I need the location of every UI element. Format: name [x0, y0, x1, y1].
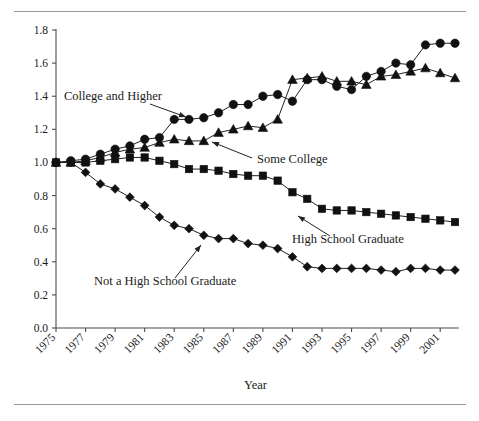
data-point-square [244, 172, 251, 179]
data-point-circle [170, 115, 178, 123]
data-point-diamond [273, 244, 282, 253]
data-point-triangle [169, 134, 179, 143]
annotation-not-a-high-school-graduate: Not a High School Graduate [94, 245, 237, 288]
x-tick-label: 1981 [121, 331, 146, 356]
data-point-diamond [421, 264, 430, 273]
y-tick-label: 0.0 [34, 322, 49, 334]
data-point-square [97, 157, 104, 164]
data-point-circle [214, 109, 222, 117]
x-axis: 1975197719791981198319851987198919911993… [33, 328, 459, 356]
data-point-triangle [450, 73, 460, 82]
y-tick-label: 0.6 [34, 223, 49, 235]
data-point-diamond [199, 231, 208, 240]
data-point-diamond [451, 266, 460, 275]
data-point-diamond [303, 262, 312, 271]
data-point-square [304, 195, 311, 202]
data-point-diamond [288, 252, 297, 261]
data-point-diamond [244, 239, 253, 248]
data-point-square [318, 205, 325, 212]
x-tick-label: 1985 [180, 331, 205, 356]
data-point-square [363, 208, 370, 215]
data-point-circle [273, 90, 281, 98]
data-point-square [392, 212, 399, 219]
data-point-diamond [377, 266, 386, 275]
data-point-diamond [436, 266, 445, 275]
data-point-triangle [199, 136, 209, 145]
x-tick-label: 1999 [387, 331, 412, 356]
data-point-diamond [332, 264, 341, 273]
data-point-square [230, 170, 237, 177]
data-point-diamond [318, 264, 327, 273]
data-point-diamond [185, 224, 194, 233]
data-point-diamond [347, 264, 356, 273]
data-point-circle [244, 100, 252, 108]
annotation-high-school-graduate: High School Graduate [292, 216, 404, 246]
data-point-circle [451, 39, 459, 47]
annotation-arrow-head [212, 142, 220, 147]
x-tick-label: 1993 [299, 331, 324, 356]
annotation-arrow-head [195, 245, 201, 252]
data-point-square [407, 213, 414, 220]
data-point-circle [229, 100, 237, 108]
data-point-circle [421, 41, 429, 49]
top-horizontal-rule [14, 11, 466, 12]
data-point-circle [392, 59, 400, 67]
data-point-square [451, 218, 458, 225]
data-point-diamond [155, 213, 164, 222]
bottom-horizontal-rule [14, 404, 466, 405]
annotation-label: Some College [257, 152, 328, 166]
data-point-diamond [258, 241, 267, 250]
x-tick-label: 1983 [151, 331, 176, 356]
data-point-triangle [332, 77, 342, 86]
x-axis-tick-labels: 1975197719791981198319851987198919911993… [33, 331, 442, 356]
y-tick-label: 0.2 [34, 289, 49, 301]
y-tick-label: 1.4 [34, 90, 49, 102]
data-point-square [215, 167, 222, 174]
data-point-circle [185, 115, 193, 123]
data-point-triangle [317, 72, 327, 81]
annotation-some-college: Some College [212, 142, 328, 166]
y-tick-label: 0.4 [34, 256, 49, 268]
data-point-square [171, 160, 178, 167]
data-point-diamond [125, 193, 134, 202]
data-point-square [200, 165, 207, 172]
data-point-diamond [81, 168, 90, 177]
data-point-diamond [170, 221, 179, 230]
data-point-square [82, 159, 89, 166]
annotation-arrow-head [298, 216, 305, 222]
data-point-square [289, 189, 296, 196]
annotation-label: College and Higher [64, 89, 163, 103]
data-point-diamond [140, 201, 149, 210]
data-point-circle [347, 85, 355, 93]
y-tick-label: 0.8 [34, 190, 49, 202]
data-point-square [111, 155, 118, 162]
data-point-circle [436, 39, 444, 47]
y-axis-ticks [52, 30, 56, 328]
annotation-label: High School Graduate [292, 232, 404, 246]
data-point-diamond [362, 264, 371, 273]
x-tick-label: 1989 [240, 331, 265, 356]
data-point-triangle [421, 63, 431, 72]
data-point-square [185, 165, 192, 172]
y-axis: 0.00.20.40.60.81.01.21.41.61.8 [34, 24, 56, 334]
y-tick-label: 1.8 [34, 24, 49, 36]
annotation-arrow-head [178, 112, 186, 117]
data-point-square [156, 157, 163, 164]
x-tick-label: 2001 [417, 331, 442, 356]
data-point-diamond [111, 185, 120, 194]
data-point-square [437, 217, 444, 224]
data-point-square [141, 154, 148, 161]
data-point-square [126, 154, 133, 161]
data-point-square [422, 215, 429, 222]
line-chart: 0.00.20.40.60.81.01.21.41.61.8 197519771… [0, 0, 479, 421]
x-axis-ticks [56, 328, 440, 332]
data-point-square [333, 207, 340, 214]
data-point-circle [259, 92, 267, 100]
x-tick-label: 1995 [328, 331, 353, 356]
data-point-square [274, 177, 281, 184]
y-tick-label: 1.2 [34, 123, 49, 135]
y-tick-label: 1.6 [34, 57, 49, 69]
data-point-circle [288, 97, 296, 105]
figure-container: 0.00.20.40.60.81.01.21.41.61.8 197519771… [0, 0, 479, 421]
data-point-triangle [435, 68, 445, 77]
